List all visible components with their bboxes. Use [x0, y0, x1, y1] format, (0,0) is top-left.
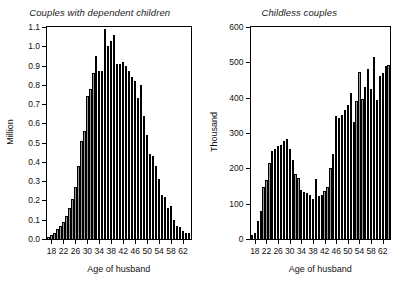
y-axis-tick [42, 46, 47, 47]
histogram-bar [74, 187, 76, 239]
x-axis-tick-label: 50 [142, 246, 151, 256]
y-axis-tick [42, 85, 47, 86]
histogram-bar [50, 235, 52, 239]
histogram-bar [77, 166, 79, 239]
y-axis-title: Million [5, 25, 15, 239]
plot-area [47, 27, 191, 239]
y-axis-tick [42, 220, 47, 221]
x-axis-tick-label: 54 [355, 246, 364, 256]
x-axis-tick-label: 18 [47, 246, 56, 256]
histogram-bar [107, 46, 109, 239]
histogram-bar [140, 85, 142, 239]
x-axis-tick-label: 26 [71, 246, 80, 256]
histogram-bar [68, 208, 70, 239]
histogram-bar [161, 195, 163, 239]
histogram-bar [122, 62, 124, 239]
y-axis-tick [246, 133, 251, 134]
histogram-bar [71, 199, 73, 239]
histogram-bar [387, 65, 389, 239]
x-axis-tick [123, 240, 124, 244]
x-axis-tick [301, 240, 302, 244]
x-axis-tick-label: 62 [378, 246, 387, 256]
x-axis-tick [135, 240, 136, 244]
y-axis-tick [42, 123, 47, 124]
x-axis-tick-label: 54 [154, 246, 163, 256]
x-axis-tick [75, 240, 76, 244]
x-axis-tick [63, 240, 64, 244]
plot-area [251, 27, 391, 239]
histogram-bar [116, 64, 118, 239]
y-axis-tick [42, 143, 47, 144]
histogram-bar [179, 227, 181, 239]
y-axis-tick [42, 66, 47, 67]
x-axis-tick-label: 42 [320, 246, 329, 256]
histogram-bar [110, 41, 112, 240]
histogram-bar [146, 135, 148, 239]
y-axis-tick [246, 168, 251, 169]
y-axis-tick [42, 27, 47, 28]
x-axis-tick-label: 22 [59, 246, 68, 256]
y-axis-tick [42, 181, 47, 182]
x-axis-tick [383, 240, 384, 244]
x-axis-tick [348, 240, 349, 244]
histogram-bar [167, 208, 169, 239]
x-axis-tick-label: 38 [107, 246, 116, 256]
histogram-bar [113, 35, 115, 239]
y-axis-tick [246, 239, 251, 240]
histogram-bar [65, 216, 67, 239]
x-axis-tick [290, 240, 291, 244]
x-axis-tick [313, 240, 314, 244]
histogram-bar [164, 197, 166, 239]
histogram-bar [158, 179, 160, 239]
x-axis-tick-label: 42 [119, 246, 128, 256]
histogram-bar [47, 237, 49, 239]
histogram-bar [152, 156, 154, 239]
histogram-bar [59, 226, 61, 239]
x-axis-tick [371, 240, 372, 244]
y-axis-title: Thousand [209, 25, 219, 239]
x-axis-tick [325, 240, 326, 244]
x-axis-tick [51, 240, 52, 244]
chart-title: Couples with dependent children [0, 7, 200, 18]
x-axis-tick-label: 26 [273, 246, 282, 256]
histogram-bar [134, 81, 136, 239]
histogram-bar [185, 233, 187, 239]
histogram-bar [62, 222, 64, 239]
histogram-bar [176, 226, 178, 239]
histogram-bar [128, 71, 130, 239]
x-axis-title: Age of husband [46, 264, 192, 274]
x-axis-tick [336, 240, 337, 244]
x-axis-tick-label: 34 [297, 246, 306, 256]
histogram-bar [182, 231, 184, 239]
figure-two-panel-histograms: Couples with dependent children0.00.10.2… [0, 0, 399, 302]
histogram-bar [131, 77, 133, 239]
x-axis-tick [266, 240, 267, 244]
histogram-bar [83, 131, 85, 239]
x-axis-tick-label: 30 [83, 246, 92, 256]
x-axis-tick [99, 240, 100, 244]
chart-panel-0: Couples with dependent children0.00.10.2… [0, 0, 200, 302]
x-axis-tick-label: 58 [166, 246, 175, 256]
y-axis-tick [246, 27, 251, 28]
histogram-bar [95, 56, 97, 239]
histogram-bar [56, 229, 58, 239]
x-axis-tick [278, 240, 279, 244]
x-axis-tick [111, 240, 112, 244]
chart-title: Childless couples [200, 7, 399, 18]
x-axis-tick [159, 240, 160, 244]
x-axis-tick-label: 50 [343, 246, 352, 256]
x-axis-tick-label: 46 [130, 246, 139, 256]
x-axis-tick-label: 38 [308, 246, 317, 256]
histogram-bar [80, 141, 82, 239]
histogram-bar [119, 64, 121, 239]
histogram-bar [104, 29, 106, 239]
x-axis-tick [87, 240, 88, 244]
y-axis-tick [246, 98, 251, 99]
x-axis-tick-label: 58 [366, 246, 375, 256]
histogram-bar [86, 96, 88, 239]
x-axis-tick [255, 240, 256, 244]
x-axis-tick-label: 46 [332, 246, 341, 256]
histogram-bar [89, 89, 91, 239]
histogram-bar [53, 233, 55, 239]
histogram-bar [170, 206, 172, 239]
